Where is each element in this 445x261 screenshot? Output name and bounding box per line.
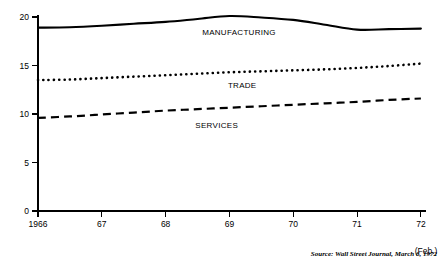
series-line-services — [38, 98, 421, 117]
x-tick-label: 67 — [97, 219, 107, 229]
y-tick-label: 5 — [24, 158, 29, 168]
x-tick-label: 1966 — [29, 219, 48, 229]
chart-series-labels: MANUFACTURINGTRADESERVICES — [195, 28, 276, 129]
y-tick-label: 15 — [20, 61, 30, 71]
chart-figure: 05101520 1966676869707172 MANUFACTURINGT… — [0, 0, 445, 261]
chart-axes — [38, 15, 426, 211]
source-note: Source: Wall Street Journal, March 6, 19… — [311, 250, 438, 258]
series-line-trade — [38, 64, 421, 80]
x-tick-label: 69 — [225, 219, 235, 229]
series-label-services: SERVICES — [195, 121, 238, 130]
y-tick-label: 20 — [20, 12, 30, 22]
series-label-manufacturing: MANUFACTURING — [202, 28, 276, 37]
y-tick-label: 0 — [24, 206, 29, 216]
x-tick-label: 71 — [352, 219, 362, 229]
x-tick-label: 72 — [416, 219, 426, 229]
series-label-trade: TRADE — [228, 81, 257, 90]
line-chart: 05101520 1966676869707172 MANUFACTURINGT… — [0, 0, 445, 261]
y-axis-ticks: 05101520 — [20, 12, 38, 216]
x-axis-ticks: 1966676869707172 — [29, 211, 426, 229]
x-tick-label: 70 — [289, 219, 299, 229]
x-tick-label: 68 — [161, 219, 171, 229]
y-tick-label: 10 — [20, 109, 30, 119]
